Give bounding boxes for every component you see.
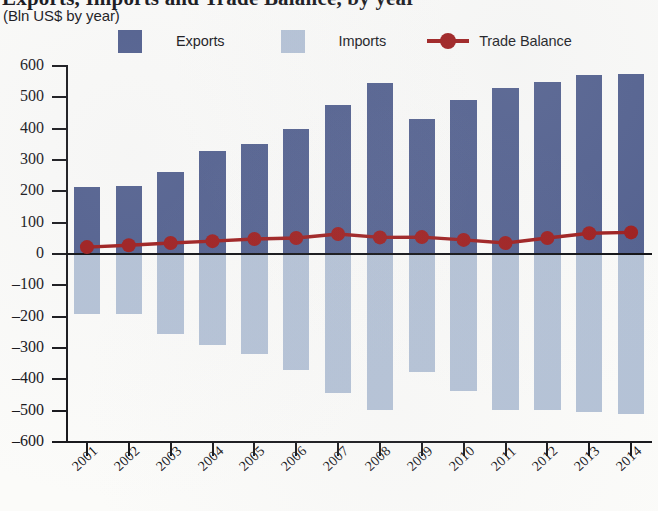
y-axis-tick xyxy=(52,65,66,67)
y-axis-tick xyxy=(52,410,66,412)
trade-balance-marker xyxy=(247,232,261,246)
trade-balance-marker xyxy=(122,238,136,252)
trade-balance-marker xyxy=(289,231,303,245)
trade-balance-marker xyxy=(457,233,471,247)
y-axis-tick-label: –200 xyxy=(0,308,44,324)
trade-balance-marker xyxy=(415,230,429,244)
y-axis-tick-label: 500 xyxy=(0,88,44,104)
y-axis-tick xyxy=(52,190,66,192)
y-axis-tick-label: –600 xyxy=(0,433,44,449)
trade-balance-marker xyxy=(499,236,513,250)
trade-balance-marker xyxy=(624,225,638,239)
y-axis-tick-label: –100 xyxy=(0,276,44,292)
y-axis-tick xyxy=(52,222,66,224)
y-axis-tick-label: 400 xyxy=(0,120,44,136)
trade-balance-line xyxy=(66,0,652,511)
y-axis-tick-label: –400 xyxy=(0,370,44,386)
trade-balance-marker xyxy=(164,236,178,250)
y-axis-tick-label: –300 xyxy=(0,339,44,355)
y-axis-tick xyxy=(52,441,66,443)
y-axis-tick xyxy=(52,96,66,98)
trade-balance-marker xyxy=(582,226,596,240)
trade-balance-marker xyxy=(80,240,94,254)
y-axis-tick-label: 600 xyxy=(0,57,44,73)
y-axis-tick xyxy=(52,128,66,130)
y-axis-tick-label: 0 xyxy=(0,245,44,261)
trade-balance-marker xyxy=(540,231,554,245)
y-axis-tick xyxy=(52,347,66,349)
y-axis-tick-label: 200 xyxy=(0,182,44,198)
y-axis-tick xyxy=(52,284,66,286)
y-axis-tick-label: 300 xyxy=(0,151,44,167)
y-axis-tick-label: –500 xyxy=(0,402,44,418)
y-axis-tick xyxy=(52,159,66,161)
y-axis-tick xyxy=(52,253,66,255)
series-layer xyxy=(66,0,652,511)
trade-balance-marker xyxy=(373,230,387,244)
y-axis-tick-label: 100 xyxy=(0,214,44,230)
y-axis-tick xyxy=(52,378,66,380)
chart-plot-area: 6005004003002001000–100–200–300–400–500–… xyxy=(0,0,658,511)
y-axis-tick xyxy=(52,316,66,318)
trade-balance-marker xyxy=(206,234,220,248)
trade-balance-marker xyxy=(331,227,345,241)
